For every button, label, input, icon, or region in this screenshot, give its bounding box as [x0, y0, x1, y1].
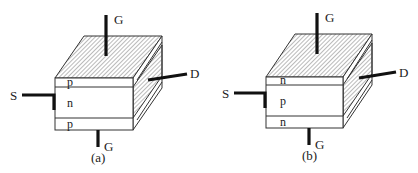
layer-top-label: p — [67, 75, 73, 89]
jfet-structure-figure: p n p G G S D (a) n p n — [0, 0, 418, 173]
source-label: S — [10, 88, 17, 103]
diagram-a: p n p G G S D (a) — [10, 12, 199, 165]
source-label: S — [222, 86, 229, 101]
diagram-b: n p n G G S D (b) — [222, 10, 408, 163]
layer-middle-label: p — [280, 94, 286, 108]
source-lead — [234, 93, 265, 108]
layer-middle-label: n — [67, 96, 73, 110]
layer-bottom-label: p — [67, 117, 73, 131]
caption-a: (a) — [91, 150, 105, 165]
top-gate-label: G — [325, 10, 334, 25]
layer-top-label: n — [280, 73, 286, 87]
source-lead — [22, 95, 54, 110]
layer-bottom-label: n — [280, 115, 286, 129]
top-gate-label: G — [114, 12, 123, 27]
drain-label: D — [399, 65, 408, 80]
drain-label: D — [190, 66, 199, 81]
caption-b: (b) — [302, 148, 317, 163]
